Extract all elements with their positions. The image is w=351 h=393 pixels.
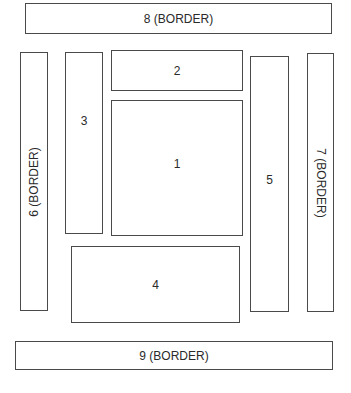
left-border-label: 6 (BORDER) — [28, 147, 40, 216]
right-border-label: 7 (BORDER) — [315, 148, 327, 217]
right-border-region: 7 (BORDER) — [307, 53, 334, 312]
right-region-label: 5 — [266, 174, 273, 186]
top-region: 2 — [111, 50, 243, 91]
top-border-region: 8 (BORDER) — [25, 3, 332, 34]
bottom-border-label: 9 (BORDER) — [139, 350, 208, 362]
right-region: 5 — [250, 56, 289, 312]
center-region: 1 — [111, 100, 243, 236]
bottom-region-label: 4 — [152, 279, 159, 291]
left-region-label: 3 — [81, 115, 88, 127]
center-region-label: 1 — [174, 158, 181, 170]
top-region-label: 2 — [174, 65, 181, 77]
left-region: 3 — [65, 52, 103, 234]
left-border-region: 6 (BORDER) — [20, 52, 48, 311]
bottom-border-region: 9 (BORDER) — [15, 341, 333, 370]
top-border-label: 8 (BORDER) — [144, 13, 213, 25]
bottom-region: 4 — [71, 246, 240, 323]
